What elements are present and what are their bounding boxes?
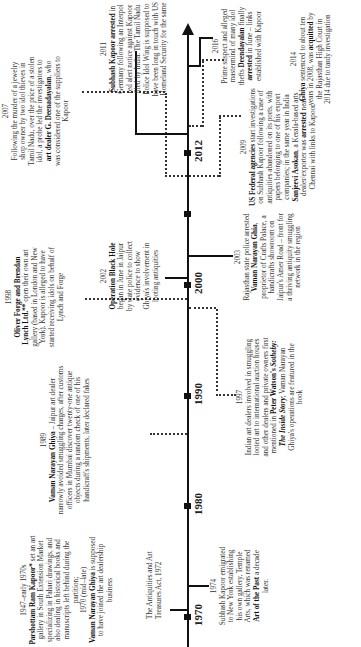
event-1974: 1974 Subhash Kapoor emigrated to New Yor… <box>210 545 270 627</box>
connector-2007 <box>165 175 187 177</box>
event-date: 2003 <box>234 213 243 301</box>
connector-1947 <box>187 620 189 647</box>
connector-2009-h <box>219 117 221 177</box>
timeline-axis <box>187 30 189 620</box>
event-2016: 2016 Prime suspect and alleged mastermin… <box>212 5 264 87</box>
event-text: Following the murder of a jewelry shop o… <box>11 57 45 166</box>
tick-label-1990: 1990 <box>192 365 204 405</box>
tick-label-2012: 2012 <box>192 122 204 162</box>
connector-2016-v <box>199 37 213 39</box>
connector-2014-h <box>202 61 204 127</box>
event-text: in Germany following an Interpol red ale… <box>109 2 169 96</box>
tick-label-1970: 1970 <box>192 586 204 626</box>
event-bold: Subhash Kapoor arrested <box>109 13 117 92</box>
event-date: 1974 <box>210 545 219 627</box>
connector-2014 <box>189 125 202 127</box>
event-1997: 1997 Indian art dealers involved in smug… <box>236 337 305 457</box>
event-bold: arrested <box>246 55 254 80</box>
event-1998: 1998 Oliver Forge and Brendan Lynch Ltd.… <box>5 247 65 347</box>
event-1947: 1947–early 1970s Parshottam Ram Kapoor* … <box>20 535 115 645</box>
connector-1997-v <box>216 394 236 396</box>
event-date: 1947–early 1970s <box>20 535 29 645</box>
event-1989: 1989 Vaman Narayan Ghiya – Jaipur art de… <box>40 365 92 515</box>
axis-arrow-icon <box>182 23 194 35</box>
tick-2012 <box>184 150 191 156</box>
connector-1997 <box>189 307 216 309</box>
event-bold: Vaman Narayan Ghia <box>251 224 259 291</box>
event-bold: Ghiya <box>299 83 307 102</box>
event-bold: Art of the Past <box>253 577 261 622</box>
event-date: 1998 <box>5 247 14 347</box>
event-bold: acquitted <box>307 21 315 50</box>
event-2002: 2002 Operation Black Hole began in June … <box>100 240 160 312</box>
event-bold: arrested <box>300 112 308 137</box>
connector-2016 <box>189 65 199 67</box>
event-bold: US Federal agencies <box>249 144 257 206</box>
connector-1989 <box>150 433 187 435</box>
tick-1990 <box>184 393 191 399</box>
connector-1974 <box>189 585 209 587</box>
event-2014: 2014 Ghiya sentenced to about ten years … <box>290 11 333 107</box>
event-2003: 2003 Rajasthan state police arrested Vam… <box>234 213 303 301</box>
connector-1972 <box>170 609 187 611</box>
event-date: 2011 <box>100 0 109 99</box>
connector-2007-h <box>165 93 167 177</box>
connector-2011 <box>135 133 187 135</box>
event-date: 2002 <box>100 240 109 312</box>
event-bold: Vaman Narayan Ghiya <box>49 431 57 502</box>
event-text: began in June in Jaipur by state police … <box>117 241 159 311</box>
event-date: 2016 <box>212 5 221 87</box>
connector-1997-h <box>216 309 218 396</box>
connector-2016-h <box>199 39 201 67</box>
event-date: 1989 <box>40 365 49 515</box>
event-text: Subhash Kapoor emigrated to New York est… <box>219 547 253 625</box>
event-text: finally <box>238 7 246 28</box>
event-bold: Parshottam Ram Kapoor* <box>29 563 37 644</box>
event-bold: art dealer G. Deenadayalan <box>45 77 53 162</box>
event-bold: Sanjeevi Asokan <box>292 151 300 202</box>
timeline-diagram: 1970 1980 1990 2000 2012 1947–early 1970… <box>0 0 361 647</box>
event-bold: Deendayalan <box>238 27 246 67</box>
tick-1980 <box>184 503 191 509</box>
event-date: 2009 <box>240 87 249 207</box>
tick-label-2000: 2000 <box>192 254 204 294</box>
connector-2003 <box>189 255 233 257</box>
tick-2000 <box>184 282 191 288</box>
event-date: 2014 <box>290 11 299 107</box>
event-2007: 2007 Following the murder of a jewelry s… <box>2 55 71 167</box>
event-date: 1970 (mid–late) <box>80 535 89 645</box>
connector-2009 <box>189 175 219 177</box>
tick-2009 <box>184 211 191 217</box>
event-text: , proprietor of Crafts Palace, a handicr… <box>251 213 302 301</box>
connector-2002 <box>165 277 187 279</box>
tick-label-1980: 1980 <box>192 475 204 515</box>
event-bold: Operation Black Hole <box>109 242 117 309</box>
event-bold: Peter Watson's <box>270 368 278 414</box>
event-2011: 2011 Subhash Kapoor arrested in Germany … <box>100 0 169 99</box>
event-bold: Vaman Narayan Ghiya <box>89 572 97 643</box>
event-date: 2007 <box>2 55 11 167</box>
event-text: set an art gallery in South Extension Ma… <box>29 535 80 642</box>
event-date: 1997 <box>236 337 245 457</box>
event-text: The Antiquities and Art Treasures Act, 1… <box>146 551 163 619</box>
event-text: Rajasthan state police arrested <box>243 213 251 300</box>
connector-2009-v <box>219 115 241 117</box>
event-1972: The Antiquities and Art Treasures Act, 1… <box>146 539 163 619</box>
